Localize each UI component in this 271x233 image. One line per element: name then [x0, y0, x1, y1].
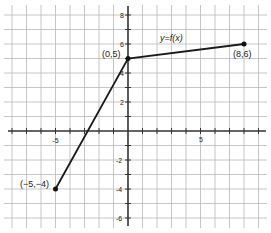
- y-tick-label: 2: [120, 99, 124, 106]
- axes: [8, 6, 266, 226]
- function-graph: -5 5 8 6 4 2 -2 -4 -6 y=f(x) (0,5) (8,6)…: [0, 0, 271, 233]
- x-tick-label: 5: [199, 136, 203, 143]
- function-label: y=f(x): [159, 33, 183, 43]
- point-label: (0,5): [102, 49, 121, 59]
- grid: [4, 5, 267, 228]
- point-label: (8,6): [233, 49, 252, 59]
- point-label: (−5,−4): [20, 179, 49, 189]
- point-0-5: [126, 56, 131, 61]
- y-tick-label: 8: [120, 12, 124, 19]
- point-neg5-neg4: [53, 187, 58, 192]
- y-tick-label: 6: [120, 41, 124, 48]
- point-8-6: [242, 42, 247, 47]
- x-tick-label: -5: [53, 137, 59, 144]
- y-tick-label: -6: [116, 215, 122, 222]
- y-tick-label: -2: [116, 157, 122, 164]
- y-tick-label: -4: [116, 186, 122, 193]
